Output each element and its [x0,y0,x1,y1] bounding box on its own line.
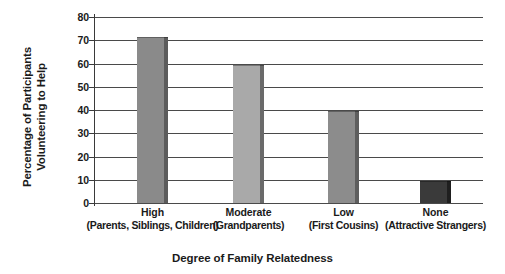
bar-high [137,37,168,203]
bar-top-cap [420,181,451,182]
y-tick-label-60: 60 [57,59,89,70]
y-tick-label-70: 70 [57,35,89,46]
y-tick-label-30: 30 [57,128,89,139]
bar-low [328,111,359,203]
plot-area [95,17,483,203]
x-category-sublabel: (Attractive Strangers) [346,219,505,232]
bar-face [420,181,447,203]
gridline-80 [95,17,483,18]
y-axis-tick-labels: 80706050403020100 [57,0,89,274]
bar-none [420,181,451,203]
x-axis-title: Degree of Family Relatedness [0,252,505,264]
bar-moderate [233,65,264,203]
bar-top-cap [233,65,264,66]
bar-shadow-edge [260,65,264,203]
bar-chart-figure: Percentage of Participants Volunteering … [0,0,505,274]
bar-shadow-edge [355,111,359,203]
y-tick-label-50: 50 [57,82,89,93]
x-category-none: None(Attractive Strangers) [346,206,505,232]
x-axis-category-labels: High(Parents, Siblings, Children)Moderat… [95,206,483,244]
y-tick-label-80: 80 [57,12,89,23]
bar-top-cap [328,111,359,112]
y-tick-label-10: 10 [57,175,89,186]
bar-shadow-edge [164,37,168,203]
gridline-0 [95,203,483,204]
y-tick-label-20: 20 [57,152,89,163]
bar-face [328,111,355,203]
y-tick-label-40: 40 [57,105,89,116]
y-axis-title-line2: Volunteering to Help [34,63,48,171]
bar-shadow-edge [447,181,451,203]
bar-face [137,37,164,203]
y-axis-title-line1: Percentage of Participants [20,47,34,187]
y-axis-title: Percentage of Participants Volunteering … [12,2,56,232]
bar-face [233,65,260,203]
x-category-name: None [346,206,505,219]
bar-top-cap [137,37,168,38]
